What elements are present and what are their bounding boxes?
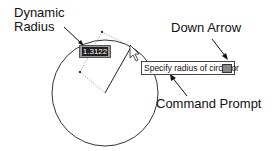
dynamic-radius-label-line1: Dynamic bbox=[14, 5, 65, 20]
command-prompt-tooltip: Specify radius of circle or bbox=[141, 61, 235, 75]
dynamic-radius-pointer bbox=[64, 27, 82, 44]
dynamic-radius-label-line2: Radius bbox=[14, 19, 54, 34]
command-prompt-label: Command Prompt bbox=[156, 96, 261, 111]
dynamic-radius-input[interactable]: 1.3122 bbox=[79, 45, 111, 58]
down-arrow-label: Down Arrow bbox=[171, 20, 241, 35]
down-arrow-icon[interactable] bbox=[222, 64, 232, 73]
down-arrow-pointer bbox=[212, 39, 226, 57]
command-prompt-pointer bbox=[172, 77, 187, 96]
dynamic-radius-value: 1.3122 bbox=[82, 47, 108, 56]
mouse-cursor-icon bbox=[130, 45, 139, 61]
